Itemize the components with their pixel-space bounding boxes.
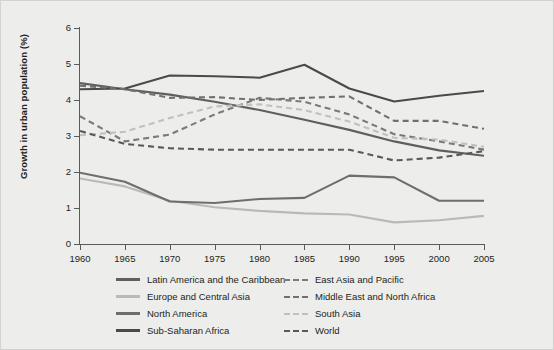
y-tick-mark [74, 208, 79, 209]
y-tick-mark [74, 100, 79, 101]
y-tick-mark [74, 64, 79, 65]
legend-item[interactable]: Middle East and North Africa [284, 288, 456, 305]
x-tick-label: 1980 [240, 253, 280, 264]
x-tick-label: 1960 [60, 253, 100, 264]
legend-label: Sub-Saharan Africa [147, 326, 229, 336]
legend-item[interactable]: World [284, 322, 456, 339]
legend-swatch-dashed-icon [284, 279, 308, 281]
legend-label: Europe and Central Asia [147, 292, 250, 302]
legend-swatch-dashed-icon [284, 330, 308, 332]
legend-item[interactable]: North America [116, 305, 284, 322]
x-tick-mark [215, 245, 216, 250]
series-line [80, 178, 484, 222]
x-tick-label: 1985 [284, 253, 324, 264]
legend-swatch-solid-icon [116, 329, 140, 332]
series-line [80, 98, 484, 150]
x-tick-mark [80, 245, 81, 250]
y-tick-label: 4 [49, 95, 71, 105]
legend-item[interactable]: East Asia and Pacific [284, 271, 456, 288]
y-tick-mark [74, 136, 79, 137]
series-line [80, 131, 484, 161]
legend-item[interactable]: Sub-Saharan Africa [116, 322, 284, 339]
y-tick-label: 2 [49, 167, 71, 177]
x-tick-mark [439, 245, 440, 250]
y-axis-title: Growth in urban population (%) [18, 12, 29, 202]
series-line [80, 173, 484, 203]
y-tick-label: 5 [49, 59, 71, 69]
legend-swatch-dashed-icon [284, 313, 308, 315]
legend-label: Middle East and North Africa [315, 292, 435, 302]
x-tick-label: 2005 [464, 253, 504, 264]
y-tick-mark [74, 172, 79, 173]
legend-label: North America [147, 309, 207, 319]
y-tick-mark [74, 28, 79, 29]
x-tick-mark [484, 245, 485, 250]
legend-swatch-solid-icon [116, 312, 140, 315]
legend-swatch-solid-icon [116, 295, 140, 298]
legend-label: East Asia and Pacific [315, 275, 404, 285]
legend-label: South Asia [315, 309, 360, 319]
x-tick-mark [260, 245, 261, 250]
series-line [80, 65, 484, 102]
legend-item[interactable]: Europe and Central Asia [116, 288, 284, 305]
y-tick-label: 1 [49, 203, 71, 213]
x-tick-label: 1975 [195, 253, 235, 264]
legend-swatch-solid-icon [116, 278, 140, 281]
series-lines [80, 28, 484, 244]
x-tick-label: 2000 [419, 253, 459, 264]
y-tick-label: 3 [49, 131, 71, 141]
chart-figure: 0123456 19601965197019751980198519901995… [0, 0, 554, 350]
chart-legend: Latin America and the CaribbeanEast Asia… [116, 271, 456, 339]
x-axis-line [79, 244, 485, 245]
legend-label: Latin America and the Caribbean [147, 275, 285, 285]
y-tick-label: 0 [49, 239, 71, 249]
legend-label: World [315, 326, 340, 336]
x-tick-mark [304, 245, 305, 250]
y-tick-label: 6 [49, 23, 71, 33]
plot-area [80, 28, 484, 244]
x-tick-mark [170, 245, 171, 250]
legend-swatch-dashed-icon [284, 296, 308, 298]
legend-item[interactable]: South Asia [284, 305, 456, 322]
legend-item[interactable]: Latin America and the Caribbean [116, 271, 284, 288]
x-tick-label: 1995 [374, 253, 414, 264]
x-tick-mark [125, 245, 126, 250]
y-tick-mark [74, 244, 79, 245]
x-tick-label: 1990 [329, 253, 369, 264]
x-tick-mark [349, 245, 350, 250]
x-tick-label: 1965 [105, 253, 145, 264]
x-tick-label: 1970 [150, 253, 190, 264]
x-tick-mark [394, 245, 395, 250]
series-line [80, 104, 484, 146]
